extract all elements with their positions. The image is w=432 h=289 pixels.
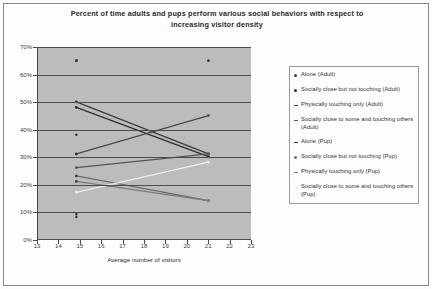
y-axis-tick-label: 20% (20, 182, 32, 188)
legend-marker-dash-icon (294, 105, 298, 106)
legend-marker-dash-icon (294, 187, 298, 188)
chart-legend: Alone (Adult)Socially close but not touc… (289, 66, 419, 204)
y-axis-tick (33, 130, 37, 131)
gridline (38, 130, 251, 131)
x-axis-title: Average number of visitors (37, 256, 251, 263)
x-axis-tick (165, 240, 166, 244)
legend-item-label: Physically touching only (Adult) (301, 101, 383, 109)
y-axis-tick-label: 10% (20, 209, 32, 215)
x-axis-tick (58, 240, 59, 244)
gridline (38, 212, 251, 213)
chart-page: Percent of time adults and pups perform … (0, 0, 432, 289)
gridline (38, 157, 251, 158)
y-axis-tick-label: 60% (20, 72, 32, 78)
x-axis-tick (187, 240, 188, 244)
legend-item-label: Physically touching only (Pup) (301, 168, 380, 176)
series-line (76, 102, 208, 154)
legend-marker-dot-icon (294, 156, 297, 159)
x-axis-tick (101, 240, 102, 244)
chart-lines (38, 47, 251, 239)
legend-item[interactable]: Socially close to some and touching othe… (293, 116, 415, 131)
legend-item[interactable]: Alone (Adult) (293, 71, 415, 79)
gridline (38, 102, 251, 103)
y-axis-tick-labels: 0%10%20%30%40%50%60%70% (8, 47, 34, 240)
legend-item-label: Alone (Adult) (301, 71, 335, 79)
series-point (207, 114, 210, 117)
series-point (75, 166, 78, 169)
data-point-marker (75, 60, 77, 62)
x-axis-tick (208, 240, 209, 244)
y-axis-tick (33, 157, 37, 158)
legend-item[interactable]: Socially close but not touching (Adult) (293, 86, 415, 94)
data-point-marker (75, 175, 77, 177)
data-point-marker (75, 216, 77, 218)
gridline (38, 185, 251, 186)
data-point-marker (75, 106, 77, 108)
x-axis-tick (80, 240, 81, 244)
x-axis-tick (37, 240, 38, 244)
legend-marker-dash-icon (294, 142, 298, 143)
series-line (76, 107, 208, 156)
legend-item-label: Socially close but not touching (Adult) (301, 86, 400, 94)
series-point (75, 191, 78, 194)
legend-item[interactable]: Physically touching only (Adult) (293, 101, 415, 109)
x-axis-tick (123, 240, 124, 244)
x-axis-tick-labels: 1314151617181920212223 (37, 243, 251, 255)
y-axis-tick (33, 102, 37, 103)
x-axis-tick (144, 240, 145, 244)
legend-item-label: Alone (Pup) (301, 138, 332, 146)
y-axis-tick (33, 185, 37, 186)
series-point (207, 161, 210, 164)
series-line (76, 154, 208, 168)
legend-item-label: Socially close to some and touching othe… (301, 183, 415, 198)
series-point (207, 59, 210, 62)
y-axis-tick (33, 212, 37, 213)
data-point-marker (75, 134, 77, 136)
legend-item-label: Socially close to some and touching othe… (301, 116, 415, 131)
legend-item-label: Socially close but not touching (Pup) (301, 153, 397, 161)
y-axis-tick-label: 30% (20, 154, 32, 160)
legend-item[interactable]: Socially close but not touching (Pup) (293, 153, 415, 161)
series-point (207, 199, 210, 202)
legend-item[interactable]: Socially close to some and touching othe… (293, 183, 415, 198)
gridline (38, 75, 251, 76)
gridline (38, 47, 251, 48)
y-axis-tick (33, 75, 37, 76)
y-axis-tick-label: 50% (20, 99, 32, 105)
data-point-marker (75, 153, 77, 155)
x-axis-tick (251, 240, 252, 244)
legend-item[interactable]: Alone (Pup) (293, 138, 415, 146)
legend-marker-dot-icon (294, 74, 297, 77)
y-axis-tick-label: 40% (20, 127, 32, 133)
legend-item[interactable]: Physically touching only (Pup) (293, 168, 415, 176)
legend-marker-dash-icon (294, 120, 298, 121)
data-point-marker (75, 213, 77, 215)
y-axis-tick-label: 70% (20, 44, 32, 50)
y-axis-tick-label: 0% (23, 237, 32, 243)
legend-marker-dot-icon (294, 89, 297, 92)
y-axis-tick (33, 47, 37, 48)
legend-marker-dash-icon (294, 172, 298, 173)
data-point-marker (75, 180, 77, 182)
series-line (76, 116, 208, 154)
x-axis-tick (230, 240, 231, 244)
chart-title: Percent of time adults and pups perform … (52, 8, 382, 30)
series-point (207, 153, 210, 156)
plot-area (37, 47, 251, 240)
